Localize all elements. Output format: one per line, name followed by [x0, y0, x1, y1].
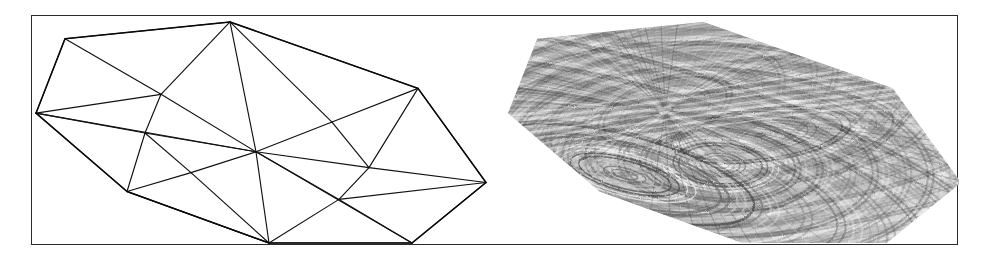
mesh-edge: [339, 183, 486, 200]
figure-root: [0, 0, 988, 258]
figure-frame: [31, 15, 958, 245]
mesh-edge: [36, 94, 161, 113]
texture-clip-group: [494, 16, 959, 244]
mesh-edge: [332, 88, 418, 122]
mesh-edge: [145, 94, 161, 133]
mesh-edge: [256, 152, 412, 243]
mesh-edge: [191, 152, 256, 173]
mesh-edge: [127, 133, 145, 191]
mesh-edge-group: [36, 22, 486, 243]
mesh-edge: [369, 168, 486, 183]
mesh-edge: [339, 168, 369, 200]
mesh-edge: [269, 199, 339, 243]
mesh-boundary-outline: [36, 22, 486, 243]
mesh-edge: [230, 22, 332, 122]
triangular-mesh-diagram: [32, 16, 494, 244]
mesh-edge: [369, 88, 418, 167]
mesh-edge: [332, 122, 369, 168]
panel-textured-surface: [494, 16, 959, 244]
mesh-boundary-polygon: [36, 22, 486, 243]
mesh-edge: [256, 152, 369, 168]
mesh-edge: [127, 173, 191, 192]
mesh-edge: [256, 122, 332, 152]
texture-grain-overlay: [494, 16, 959, 244]
mesh-edge: [65, 39, 161, 95]
mesh-edge: [191, 173, 269, 243]
panel-wireframe-mesh: [32, 16, 494, 244]
mesh-edge: [256, 152, 269, 243]
textured-surface-rendering: [494, 16, 959, 244]
mesh-edge: [230, 22, 256, 152]
mesh-edge: [161, 22, 230, 94]
